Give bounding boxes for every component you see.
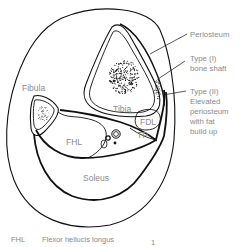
stipple-dot (113, 71, 114, 72)
stipple-dot (125, 87, 126, 88)
stipple-dot (158, 82, 159, 83)
stipple-dot (42, 116, 43, 117)
stipple-dot (128, 63, 129, 64)
stipple-dot (155, 88, 156, 89)
stipple-dot (118, 68, 119, 69)
stipple-dot (135, 73, 136, 74)
stipple-dot (114, 83, 115, 84)
stipple-dot (45, 116, 46, 117)
stipple-dot (39, 117, 40, 118)
stipple-dot (157, 98, 158, 99)
stipple-dot (133, 67, 134, 68)
stipple-dot (116, 88, 117, 89)
vessel-large-inner (114, 132, 119, 137)
stipple-dot (120, 85, 121, 86)
stipple-dot (131, 62, 132, 63)
stipple-dot (41, 119, 42, 120)
stipple-dot (134, 73, 135, 74)
stipple-dot (136, 85, 137, 86)
stipple-dot (127, 90, 128, 91)
stipple-dot (42, 111, 43, 112)
stipple-dot (43, 109, 44, 110)
tibia-marrow-stipple (109, 60, 140, 94)
stipple-dot (129, 84, 130, 85)
stipple-dot (41, 117, 42, 118)
stipple-dot (122, 65, 123, 66)
stipple-dot (157, 92, 158, 93)
stipple-dot (158, 86, 159, 87)
stipple-dot (125, 78, 126, 79)
stipple-dot (124, 76, 125, 77)
stipple-dot (117, 73, 118, 74)
stipple-dot (127, 88, 128, 89)
stipple-dot (136, 84, 137, 85)
stipple-dot (157, 85, 158, 86)
stipple-dot (137, 78, 138, 79)
stipple-dot (122, 93, 123, 94)
stipple-dot (114, 78, 115, 79)
stipple-dot (114, 87, 115, 88)
stipple-dot (117, 68, 118, 69)
stipple-dot (131, 64, 132, 65)
stipple-dot (159, 92, 160, 93)
stipple-dot (118, 92, 119, 93)
stipple-dot (128, 89, 129, 90)
stipple-dot (38, 118, 39, 119)
stipple-dot (131, 89, 132, 90)
stipple-dot (110, 80, 111, 81)
stipple-dot (126, 77, 127, 78)
stipple-dot (122, 89, 123, 90)
stipple-dot (123, 70, 124, 71)
stipple-dot (114, 75, 115, 76)
stipple-dot (121, 70, 122, 71)
stipple-dot (159, 84, 160, 85)
stipple-dot (123, 77, 124, 78)
annotation-type2: Type (II) Elevated periosteum with fat b… (189, 87, 231, 136)
stipple-dot (120, 63, 121, 64)
stipple-dot (115, 70, 116, 71)
stipple-dot (132, 69, 133, 70)
stipple-dot (131, 79, 132, 80)
stipple-dot (135, 82, 136, 83)
stipple-dot (116, 75, 117, 76)
vessel-small (114, 142, 117, 145)
stipple-dot (131, 77, 132, 78)
stipple-dot (125, 70, 126, 71)
stipple-dot (41, 108, 42, 109)
stipple-dot (39, 109, 40, 110)
stipple-dot (124, 72, 125, 73)
stipple-dot (115, 77, 116, 78)
stipple-dot (155, 87, 156, 88)
stipple-dot (132, 87, 133, 88)
stipple-dot (45, 113, 46, 114)
stipple-dot (44, 115, 45, 116)
stipple-dot (156, 94, 157, 95)
stipple-dot (130, 68, 131, 69)
stipple-dot (111, 81, 112, 82)
stipple-dot (115, 83, 116, 84)
stipple-dot (38, 110, 39, 111)
stipple-dot (156, 90, 157, 91)
stipple-dot (118, 71, 119, 72)
periosteum-layer (120, 24, 164, 106)
stipple-dot (124, 93, 125, 94)
stipple-dot (155, 93, 156, 94)
stipple-dot (134, 88, 135, 89)
stipple-dot (119, 83, 120, 84)
stipple-dot (160, 86, 161, 87)
stipple-dot (128, 83, 129, 84)
stipple-dot (156, 92, 157, 93)
stipple-dot (159, 88, 160, 89)
stipple-dot (156, 82, 157, 83)
stipple-dot (126, 72, 127, 73)
stipple-dot (46, 119, 47, 120)
stipple-dot (125, 79, 126, 80)
tibia-outer (84, 25, 160, 117)
stipple-dot (134, 74, 135, 75)
stipple-dot (158, 91, 159, 92)
stipple-dot (118, 66, 119, 67)
stipple-dot (38, 115, 39, 116)
stipple-dot (156, 85, 157, 86)
stipple-dot (109, 72, 110, 73)
stipple-dot (156, 80, 157, 81)
